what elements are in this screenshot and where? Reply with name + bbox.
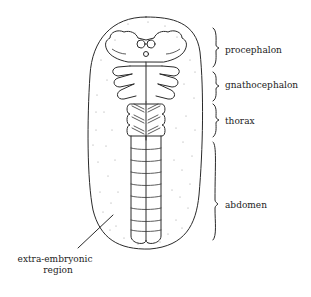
embryo-diagram: procephalon gnathocephalon thorax abdome… [0,0,311,297]
label-thorax: thorax [225,116,255,126]
label-extra-embryonic: extra-embryonic [18,254,93,264]
bracket-procephalon [213,28,219,67]
label-procephalon: procephalon [225,45,282,55]
leader-line-extra-embryonic [78,215,113,248]
label-region: region [43,265,73,275]
bracket-thorax [213,104,219,137]
gnathocephalon-structure [113,62,180,102]
bracket-abdomen [213,142,218,240]
thorax-structure [127,102,165,140]
abdomen-structure [131,136,161,243]
label-gnathocephalon: gnathocephalon [225,80,298,90]
bracket-gnathocephalon [213,72,219,101]
procephalon-structure [106,31,187,62]
label-abdomen: abdomen [225,200,267,210]
